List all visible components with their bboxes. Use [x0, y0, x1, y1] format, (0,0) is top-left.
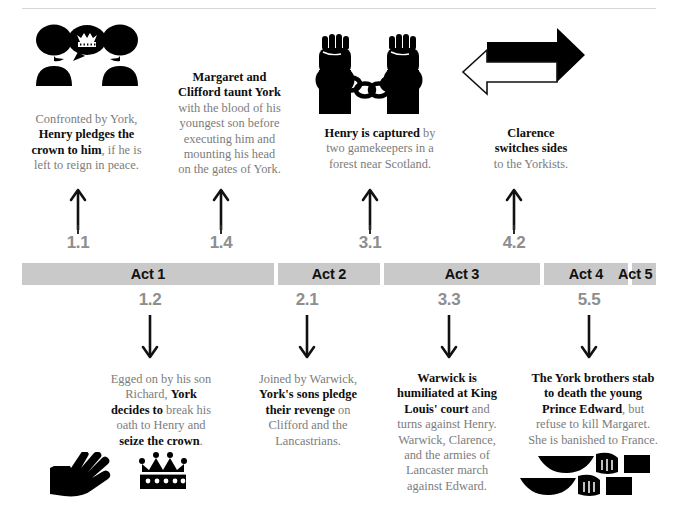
down-arrow-3-3	[439, 315, 459, 359]
scene-number-4-2: 4.2	[494, 233, 534, 253]
scene-note-3-1: Henry is captured bytwo gamekeepers in a…	[305, 126, 455, 172]
up-arrow-3-1	[360, 188, 380, 230]
down-arrow-1-2	[140, 315, 160, 359]
scene-number-2-1: 2.1	[287, 290, 327, 310]
down-arrow-5-5	[579, 315, 599, 359]
act-segment-3[interactable]: Act 3	[384, 263, 540, 285]
tick-4-2	[513, 225, 515, 234]
scene-note-3-3: Warwick ishumiliated at KingLouis' court…	[377, 371, 517, 494]
tick-1-4	[220, 225, 222, 234]
scene-note-1-1: Confronted by York,Henry pledges thecrow…	[14, 112, 159, 174]
act-label-2: Act 2	[312, 266, 346, 282]
scene-number-1-2: 1.2	[130, 290, 170, 310]
scene-number-3-1: 3.1	[350, 233, 390, 253]
two-figures-crown-speech-icon	[16, 24, 156, 86]
act-label-4: Act 4	[569, 266, 603, 282]
act-label-3: Act 3	[445, 266, 479, 282]
act-segment-5[interactable]: Act 5	[632, 263, 656, 285]
scene-number-1-1: 1.1	[58, 233, 98, 253]
act-segment-4[interactable]: Act 4	[544, 263, 628, 285]
up-arrow-1-4	[211, 188, 231, 230]
hand-and-crown-icon	[48, 452, 196, 502]
tick-1-1	[77, 225, 79, 234]
scene-note-4-2: Clarenceswitches sidesto the Yorkists.	[466, 126, 596, 172]
act-segment-1[interactable]: Act 1	[22, 263, 274, 285]
switching-arrows-icon	[461, 24, 591, 104]
scene-note-5-5: The York brothers stabto death the young…	[510, 371, 676, 448]
scene-note-1-4: Margaret andClifford taunt Yorkwith the …	[157, 70, 302, 178]
up-arrow-1-1	[68, 188, 88, 230]
two-daggers-icon	[520, 448, 666, 506]
scene-number-1-4: 1.4	[201, 233, 241, 253]
scene-note-2-1: Joined by Warwick,York's sons pledgethei…	[234, 372, 382, 449]
scene-number-5-5: 5.5	[569, 290, 609, 310]
act-segment-2[interactable]: Act 2	[278, 263, 380, 285]
down-arrow-2-1	[297, 315, 317, 359]
act-label-5: Act 5	[618, 266, 652, 282]
up-arrow-4-2	[504, 188, 524, 230]
tick-3-1	[369, 225, 371, 234]
handcuffed-fists-icon	[305, 22, 433, 114]
scene-note-1-2: Egged on by his sonRichard, Yorkdecides …	[86, 372, 236, 449]
top-divider	[22, 8, 656, 9]
scene-number-3-3: 3.3	[429, 290, 469, 310]
act-label-1: Act 1	[131, 266, 165, 282]
infographic-timeline: Confronted by York,Henry pledges thecrow…	[0, 0, 678, 517]
act-timeline-bar: Act 1 Act 2 Act 3 Act 4 Act 5	[22, 263, 656, 285]
